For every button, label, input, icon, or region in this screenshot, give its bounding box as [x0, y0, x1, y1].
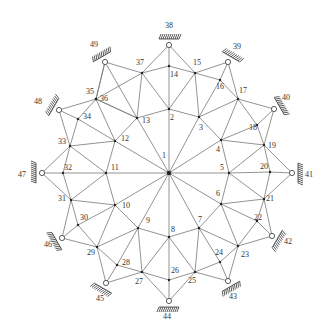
node-dot-icon — [220, 203, 222, 205]
node-dot-icon — [95, 98, 97, 100]
node-label: 36 — [100, 94, 108, 103]
support-hatch-icon — [45, 94, 58, 116]
truss-member — [238, 99, 274, 109]
node-label: 10 — [122, 201, 130, 210]
truss-member — [71, 173, 106, 200]
truss-member — [137, 118, 169, 173]
node-dot-icon — [237, 245, 239, 247]
truss-member — [238, 221, 257, 246]
node-dot-icon — [114, 140, 116, 142]
truss-member — [220, 262, 228, 281]
node-dot-icon — [228, 172, 230, 174]
node-label: 21 — [266, 194, 274, 203]
truss-member — [195, 228, 199, 272]
truss-member — [97, 247, 106, 283]
node-dot-icon — [116, 264, 118, 266]
truss-member — [97, 247, 117, 265]
node-dot-icon — [237, 98, 239, 100]
truss-member — [221, 173, 229, 204]
node-label: 27 — [135, 277, 143, 286]
node-dot-icon — [137, 227, 139, 229]
node-dot-icon — [269, 171, 271, 173]
node-dot-icon — [105, 172, 107, 174]
truss-member — [78, 225, 97, 247]
node-label: 3 — [199, 123, 203, 132]
node-label: 5 — [220, 163, 224, 172]
truss-member — [257, 125, 264, 145]
support-hatch-icon — [298, 163, 303, 185]
node-label: 32 — [64, 163, 72, 172]
node-label: 47 — [18, 170, 26, 179]
truss-member — [229, 172, 270, 173]
truss-member — [62, 238, 97, 247]
node-label: 14 — [170, 70, 178, 79]
truss-member — [142, 45, 169, 73]
truss-member — [195, 73, 199, 117]
support-node-icon — [103, 280, 108, 285]
node-label: 15 — [193, 58, 201, 67]
truss-member — [199, 99, 238, 117]
truss-member — [142, 73, 169, 109]
node-dot-icon — [194, 271, 196, 273]
node-dot-icon — [219, 79, 221, 81]
node-label: 13 — [142, 116, 150, 125]
truss-member — [70, 141, 115, 146]
node-label: 35 — [86, 87, 94, 96]
truss-member — [106, 173, 115, 205]
truss-member — [169, 140, 221, 173]
support-node-icon — [102, 59, 107, 64]
node-dot-icon — [168, 108, 170, 110]
node-label: 12 — [121, 134, 129, 143]
support-node-icon — [39, 170, 44, 175]
truss-member — [137, 73, 142, 118]
node-label: 2 — [170, 113, 174, 122]
truss-member — [138, 228, 169, 237]
node-dot-icon — [96, 246, 98, 248]
truss-member — [169, 117, 199, 173]
node-label: 41 — [305, 170, 313, 179]
truss-member — [195, 262, 220, 272]
truss-member — [169, 173, 199, 228]
node-label: 6 — [216, 189, 220, 198]
node-label: 20 — [260, 162, 268, 171]
node-label: 7 — [198, 215, 202, 224]
truss-member — [264, 109, 274, 145]
node-label: 38 — [165, 21, 173, 30]
support-node-icon — [59, 235, 64, 240]
node-label: 46 — [44, 240, 52, 249]
node-label: 22 — [254, 213, 262, 222]
node-dot-icon — [114, 204, 116, 206]
node-label: 18 — [249, 123, 257, 132]
truss-member — [221, 204, 257, 221]
node-dot-icon — [69, 145, 71, 147]
truss-member — [138, 228, 142, 272]
node-label: 33 — [58, 137, 66, 146]
truss-member — [199, 204, 221, 228]
node-dot-icon — [198, 116, 200, 118]
node-dot-icon — [141, 271, 143, 273]
node-label: 17 — [239, 86, 247, 95]
support-node-icon — [225, 59, 230, 64]
node-label: 16 — [216, 82, 224, 91]
truss-member — [221, 140, 264, 145]
node-dot-icon — [168, 236, 170, 238]
node-label: 26 — [171, 266, 179, 275]
node-label: 11 — [111, 163, 119, 172]
truss-member — [115, 141, 169, 173]
node-dot-icon — [263, 198, 265, 200]
truss-member — [142, 237, 169, 272]
truss-member — [169, 45, 195, 73]
truss-member — [228, 246, 238, 281]
truss-member — [221, 199, 264, 204]
truss-member — [169, 173, 221, 204]
truss-member — [59, 110, 78, 119]
truss-member — [97, 205, 115, 247]
truss-member — [229, 173, 264, 199]
node-label: 43 — [229, 292, 237, 301]
node-dot-icon — [220, 139, 222, 141]
node-label: 24 — [215, 248, 223, 257]
support-hatch-icon — [159, 34, 181, 39]
node-label: 44 — [163, 312, 171, 321]
truss-member — [229, 145, 264, 173]
truss-member — [238, 99, 257, 125]
